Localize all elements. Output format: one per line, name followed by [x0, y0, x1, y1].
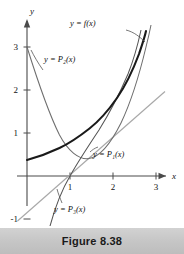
curve-p2 [27, 25, 151, 159]
curve-label-f-name: f(x) [84, 18, 96, 28]
curve-label-p2: y = P₂(x) [43, 54, 76, 64]
figure-caption-band: Figure 8.38 [0, 228, 184, 254]
curve-label-f-prefix: y = [69, 18, 84, 28]
plot-svg: 1 2 3 3 2 1 -1 y x [0, 0, 184, 226]
figure-caption-text: Figure 8.38 [62, 235, 122, 247]
y-tick-label-2: 2 [14, 85, 19, 95]
tick-marks-group [24, 47, 157, 219]
x-tick-label-3: 3 [154, 182, 159, 192]
x-axis-label: x [171, 171, 176, 181]
curve-label-p3-prefix: y = [53, 204, 68, 214]
y-tick-label-neg1: -1 [11, 214, 19, 224]
y-tick-label-1: 1 [14, 128, 19, 138]
plot-area: 1 2 3 3 2 1 -1 y x [0, 0, 184, 226]
axes-group [17, 19, 166, 206]
y-axis-arrowhead [24, 19, 30, 28]
curve-label-p3: y = P₃(x) [53, 204, 86, 214]
leader-f [126, 30, 145, 42]
curve-label-p2-prefix: y = [43, 54, 58, 64]
x-tick-label-1: 1 [68, 182, 73, 192]
curve-label-p1-name: P₁(x) [106, 149, 125, 159]
x-axis-arrowhead [159, 173, 167, 179]
y-axis-label: y [29, 6, 34, 16]
y-tick-label-3: 3 [14, 42, 19, 52]
figure-container: 1 2 3 3 2 1 -1 y x [0, 0, 184, 254]
leader-p2 [31, 50, 43, 70]
curve-f [27, 31, 146, 160]
curve-label-f: y = f(x) [69, 18, 96, 28]
curve-label-p3-name: P₃(x) [67, 204, 86, 214]
curve-label-p2-name: P₂(x) [57, 54, 76, 64]
curve-label-p1-prefix: y = [92, 149, 107, 159]
x-tick-label-2: 2 [111, 182, 116, 192]
curve-label-p1: y = P₁(x) [92, 149, 125, 159]
